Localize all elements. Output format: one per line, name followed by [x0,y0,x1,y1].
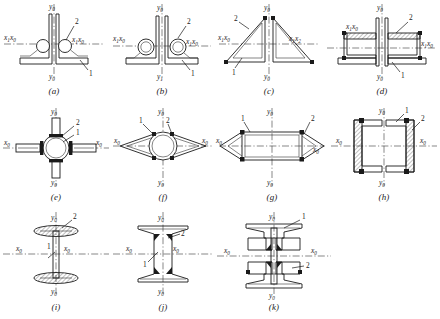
angle-section-left [20,14,52,64]
weld-node-left [342,31,346,35]
weld-root-right [184,53,198,58]
panel-j-drawing: y0 y0 x0 x0 2 1 [110,208,216,304]
weld-root-left [20,50,38,56]
weld-lb [359,169,364,174]
web-plate-left [376,18,379,66]
callout-leader-1 [48,252,55,258]
axis-label-x0-right: x0 [172,244,179,254]
axis-label-x0-left: x0 [215,136,222,146]
panel-g: y0 y0 x0 x0 1 2 (g) [216,104,328,206]
axis-label-x0-left: x0 [223,246,230,256]
panel-k-caption: (k) [214,302,334,312]
panel-a: y0 y0 x1x0 x1x0 2 1 (a) [0,0,108,100]
panel-f: y0 y0 x0 x0 1 2 (f) [110,104,216,206]
axis-label-y0-top: y0 [378,106,385,116]
axis-label-x1x0-right: x1x0 [420,39,433,49]
panel-c-caption: (c) [216,86,322,96]
callout-leader-1 [182,60,190,70]
callout-leader-1 [235,58,242,68]
panel-j-caption: (j) [110,302,216,312]
weld-rt [300,130,305,135]
callout-leader-1 [80,60,88,70]
weld-corner-br [298,270,302,274]
panel-f-caption: (f) [110,192,216,202]
panel-h-drawing: y0 y0 x0 x0 1 2 [328,104,440,194]
callout-leader-1 [396,114,404,122]
tube-outer [149,132,177,160]
fillet-bot-right [166,267,172,274]
fillet-bot-left [154,267,160,274]
weld-root-right [71,50,89,56]
weld-node-left-top [263,16,267,20]
weld-right [69,141,72,155]
axis-label-x0-left: x0 [113,136,120,146]
axis-label-y0-bottom: y0 [378,178,385,188]
callout-1: 1 [405,106,409,115]
panel-d-drawing: y0 y0 x1x0 x1x0 2 1 [324,0,440,88]
panel-e: y0 y0 x0 x0 2 1 (e) [0,104,112,206]
panel-k-drawing: y0 y0 x0 x0 1 2 [214,208,334,304]
axis-label-y0-bottom: y0 [157,178,164,188]
weld-rb [300,157,305,162]
callout-2: 2 [409,13,413,22]
weld-lt [359,118,364,123]
callout-2: 2 [76,118,80,127]
round-bar-right [170,39,186,55]
axis-label-x1x0-right: x1x0 [71,35,84,45]
weld-bead-left [37,40,50,53]
callout-2: 2 [306,261,310,270]
axis-label-x1x2-right: x1x2 [288,34,301,44]
arm-bottom [52,160,60,178]
callout-1: 1 [401,71,405,80]
callout-leader-2 [62,126,74,136]
tube-outer [43,135,69,161]
axis-label-x0-right: x0 [201,136,208,146]
callout-leader-1 [244,122,250,132]
weld-node-left-bot [224,60,228,64]
callout-leader-2 [304,122,310,134]
figure-sheet: y0 y0 x1x0 x1x0 2 1 (a) y0 y1 x1x0 x1x0 … [0,0,440,319]
callout-leader-2 [292,266,304,268]
weld-node-left-b [342,56,346,60]
panel-g-drawing: y0 y0 x0 x0 1 2 [216,104,328,194]
panel-h-caption: (h) [328,192,440,202]
weld-node-right-b [418,56,422,60]
panel-i: y0 y0 x0 x0 2 1 (i) [0,208,112,316]
panel-c-drawing: y0 y0 x1x0 x1x2 2 1 [216,0,322,88]
callout-1: 1 [143,260,147,269]
weld-left [40,141,43,155]
weld-bead-right [59,40,72,53]
weld-right-bot [170,156,174,160]
axis-label-x0-right: x0 [63,244,70,254]
callout-2: 2 [421,114,425,123]
callout-2: 2 [181,229,185,238]
axis-label-x1x0-right: x1x0 [185,37,198,47]
web-plate-right [385,18,388,66]
panel-e-drawing: y0 y0 x0 x0 2 1 [0,104,112,194]
callout-leader-2 [178,26,186,38]
panel-e-caption: (e) [0,192,112,202]
panel-b-drawing: y0 y1 x1x0 x1x0 2 1 [110,0,214,88]
axis-label-x0-right: x0 [312,145,319,155]
callout-leader-2 [396,22,408,33]
panel-a-caption: (a) [0,86,108,96]
panel-c: y0 y0 x1x0 x1x2 2 1 (c) [216,0,322,100]
panel-i-drawing: y0 y0 x0 x0 2 1 [0,208,112,304]
axis-label-y0-bottom: y0 [50,178,57,188]
channel-web-right [406,120,414,172]
panel-d-caption: (d) [324,86,440,96]
round-bar-left [138,39,154,55]
weld-root-left [126,53,140,58]
weld-corner-bl [246,270,250,274]
weld-br [277,262,282,268]
panel-h: y0 y0 x0 x0 1 2 (h) [328,104,440,206]
axis-label-x1x0-left: x1x0 [3,33,16,43]
callout-1: 1 [191,69,195,78]
weld-rb [404,169,409,174]
panel-a-drawing: y0 y0 x1x0 x1x0 2 1 [0,0,108,88]
panel-b: y0 y1 x1x0 x1x0 2 1 (b) [110,0,214,100]
panel-k: y0 y0 x0 x0 1 2 (k) [214,208,334,316]
callout-2: 2 [75,17,79,26]
callout-2: 2 [166,116,170,125]
weld-tr [277,244,282,250]
